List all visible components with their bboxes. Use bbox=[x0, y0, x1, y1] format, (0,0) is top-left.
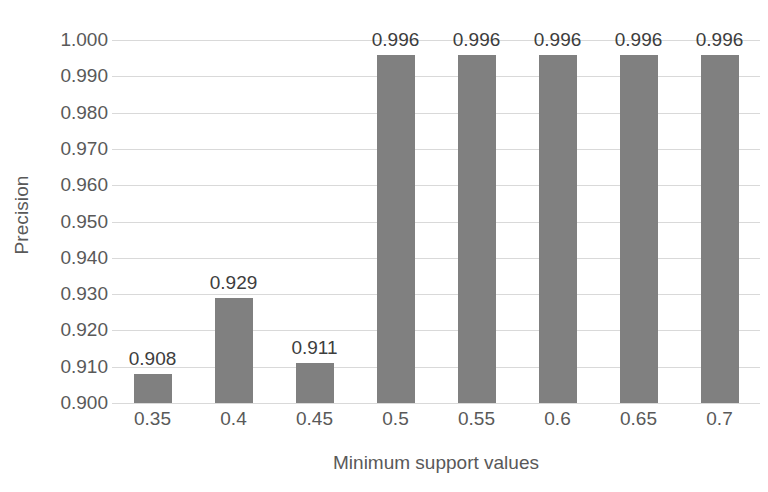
x-axis-tick-label: 0.4 bbox=[220, 408, 246, 430]
y-axis-title: Precision bbox=[2, 0, 42, 430]
y-axis-tick-label: 1.000 bbox=[42, 29, 108, 51]
x-axis-tick-label: 0.5 bbox=[382, 408, 408, 430]
x-axis-tick-label: 0.7 bbox=[706, 408, 732, 430]
bar-value-label: 0.911 bbox=[291, 337, 337, 359]
bar[interactable] bbox=[539, 55, 577, 403]
x-axis-tick-labels: 0.350.40.450.50.550.60.650.7 bbox=[112, 408, 760, 440]
bar-slot: 0.996 bbox=[598, 40, 679, 403]
bar-slot: 0.996 bbox=[355, 40, 436, 403]
plot-area: 0.9080.9290.9110.9960.9960.9960.9960.996 bbox=[112, 40, 760, 403]
y-axis-tick-label: 0.980 bbox=[42, 102, 108, 124]
bar[interactable] bbox=[215, 298, 253, 403]
gridline bbox=[112, 403, 760, 404]
bar[interactable] bbox=[701, 55, 739, 403]
bar-slot: 0.908 bbox=[112, 40, 193, 403]
bar-value-label: 0.996 bbox=[372, 29, 420, 51]
bar[interactable] bbox=[620, 55, 658, 403]
bar-value-label: 0.929 bbox=[210, 272, 258, 294]
y-axis-tick-label: 0.970 bbox=[42, 138, 108, 160]
bar[interactable] bbox=[296, 363, 334, 403]
x-axis-tick-label: 0.55 bbox=[458, 408, 495, 430]
bar-value-label: 0.996 bbox=[696, 29, 744, 51]
y-axis-tick-label: 0.940 bbox=[42, 247, 108, 269]
bar-slot: 0.996 bbox=[517, 40, 598, 403]
y-axis-title-text: Precision bbox=[11, 175, 33, 254]
bar-value-label: 0.996 bbox=[534, 29, 582, 51]
x-axis-tick-label: 0.6 bbox=[544, 408, 570, 430]
y-axis-tick-label: 0.960 bbox=[42, 174, 108, 196]
y-axis-tick-label: 0.920 bbox=[42, 319, 108, 341]
y-axis-tick-label: 0.900 bbox=[42, 392, 108, 414]
y-axis-tick-label: 0.950 bbox=[42, 211, 108, 233]
bar-slot: 0.929 bbox=[193, 40, 274, 403]
bars-layer: 0.9080.9290.9110.9960.9960.9960.9960.996 bbox=[112, 40, 760, 403]
x-axis-title: Minimum support values bbox=[112, 452, 760, 474]
bar[interactable] bbox=[377, 55, 415, 403]
y-axis-tick-label: 0.930 bbox=[42, 283, 108, 305]
bar-slot: 0.996 bbox=[436, 40, 517, 403]
y-axis-tick-label: 0.910 bbox=[42, 356, 108, 378]
bar-slot: 0.911 bbox=[274, 40, 355, 403]
bar-slot: 0.996 bbox=[679, 40, 760, 403]
x-axis-tick-label: 0.35 bbox=[134, 408, 171, 430]
x-axis-tick-label: 0.45 bbox=[296, 408, 333, 430]
bar-chart: Precision 1.0000.9900.9800.9700.9600.950… bbox=[0, 0, 768, 492]
x-axis-tick-label: 0.65 bbox=[620, 408, 657, 430]
bar[interactable] bbox=[134, 374, 172, 403]
bar-value-label: 0.996 bbox=[615, 29, 663, 51]
y-axis-tick-labels: 1.0000.9900.9800.9700.9600.9500.9400.930… bbox=[42, 0, 108, 430]
bar[interactable] bbox=[458, 55, 496, 403]
bar-value-label: 0.996 bbox=[453, 29, 501, 51]
bar-value-label: 0.908 bbox=[129, 348, 177, 370]
y-axis-tick-label: 0.990 bbox=[42, 65, 108, 87]
